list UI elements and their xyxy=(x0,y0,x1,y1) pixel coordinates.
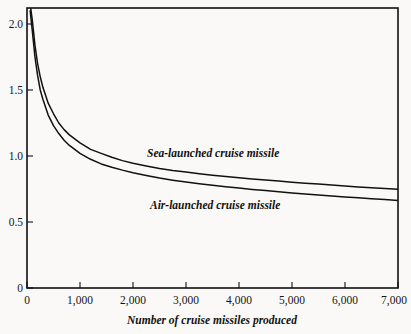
x-tick-label-2000: 2,000 xyxy=(120,294,146,307)
x-tick-label-4000: 4,000 xyxy=(226,294,252,307)
y-tick-label-0: 0 xyxy=(17,282,23,294)
series-label-air-launched: Air-launched cruise missile xyxy=(149,199,280,211)
y-tick-label-1-5: 1.5 xyxy=(9,84,24,96)
x-tick-label-6000: 6,000 xyxy=(332,294,358,307)
y-tick-label-0-5: 0.5 xyxy=(9,216,24,228)
x-tick-label-0: 0 xyxy=(24,294,30,306)
x-tick-label-5000: 5,000 xyxy=(279,294,305,307)
x-tick-label-3000: 3,000 xyxy=(173,294,199,307)
chart-canvas: 0 0.5 1.0 1.5 2.0 0 1,000 2,000 3,000 4,… xyxy=(0,0,411,334)
y-tick-label-2-0: 2.0 xyxy=(9,18,24,30)
x-axis-title: Number of cruise missiles produced xyxy=(126,314,297,327)
x-tick-label-1000: 1,000 xyxy=(67,294,93,307)
chart-figure: 0 0.5 1.0 1.5 2.0 0 1,000 2,000 3,000 4,… xyxy=(0,0,411,334)
x-tick-label-7000: 7,000 xyxy=(381,294,407,307)
figure-background xyxy=(0,0,411,334)
series-label-sea-launched: Sea-launched cruise missile xyxy=(147,147,279,159)
y-tick-label-1-0: 1.0 xyxy=(9,150,24,162)
